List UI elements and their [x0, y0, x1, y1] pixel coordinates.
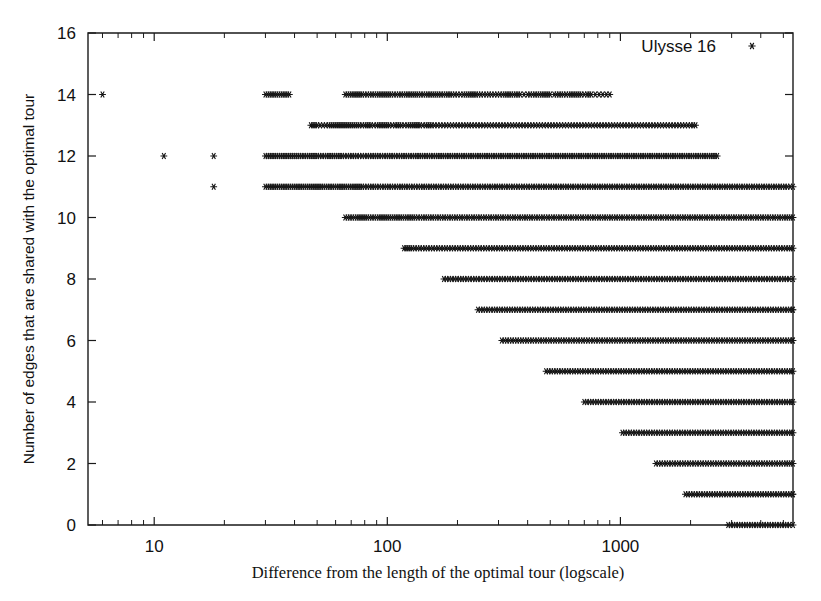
scatter-plot: 101001000 0246810121416 Ulysse 16 Differ… [0, 0, 821, 601]
y-tick-label: 12 [57, 147, 76, 166]
y-tick-label: 4 [67, 393, 76, 412]
y-tick-label: 14 [57, 86, 76, 105]
y-tick-label: 0 [67, 516, 76, 535]
x-axis-title: Difference from the length of the optima… [252, 563, 625, 582]
x-tick-label: 100 [373, 537, 401, 556]
y-tick-label: 10 [57, 209, 76, 228]
y-tick-label: 8 [67, 270, 76, 289]
y-tick-label: 16 [57, 24, 76, 43]
data-row [475, 307, 797, 313]
y-axis-title: Number of edges that are shared with the… [20, 94, 37, 464]
x-tick-label: 1000 [602, 537, 640, 556]
plot-background [0, 0, 821, 601]
data-row [401, 245, 797, 251]
legend-label: Ulysse 16 [641, 37, 716, 56]
figure-container: 101001000 0246810121416 Ulysse 16 Differ… [0, 0, 821, 601]
y-tick-label: 6 [67, 332, 76, 351]
x-tick-label: 10 [145, 537, 164, 556]
y-tick-label: 2 [67, 455, 76, 474]
